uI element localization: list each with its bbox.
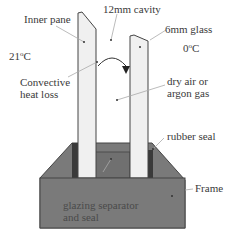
degree-mark: o <box>189 42 193 50</box>
outer-pane <box>130 35 148 178</box>
label-gas-line1: dry air or <box>167 76 208 87</box>
convection-arrow-icon <box>98 58 126 66</box>
rubber-seal-left <box>72 143 78 178</box>
label-separator-line2: and seal <box>63 212 99 223</box>
label-glass: 6mm glass <box>165 24 212 35</box>
label-cavity: 12mm cavity <box>103 4 161 15</box>
label-outside-temp: 0oC <box>183 43 199 54</box>
label-inside-temp: 21oC <box>9 51 31 62</box>
arrowhead-icon <box>122 66 130 74</box>
degree-mark: o <box>20 50 24 58</box>
label-frame: Frame <box>195 183 223 194</box>
label-separator-line1: glazing separator <box>63 200 138 211</box>
label-gas-line2: argon gas <box>167 88 209 99</box>
inner-pane <box>78 12 96 178</box>
label-rubber-seal: rubber seal <box>167 131 216 142</box>
label-convective-line1: Convective <box>20 77 70 88</box>
inside-temp-unit: C <box>24 50 31 62</box>
rubber-seal-right <box>148 150 153 178</box>
glazing-separator <box>95 152 130 178</box>
outside-temp-unit: C <box>192 42 199 54</box>
outside-temp-value: 0 <box>183 42 189 54</box>
label-inner-pane: Inner pane <box>24 14 71 25</box>
inside-temp-value: 21 <box>9 50 20 62</box>
label-convective-line2: heat loss <box>20 89 58 100</box>
